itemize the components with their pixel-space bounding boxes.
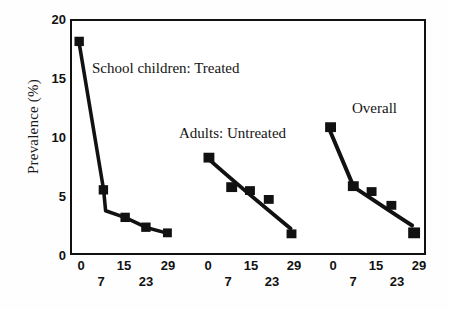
x-tick-g1-23: 23 — [139, 274, 153, 289]
data-point — [264, 195, 274, 204]
x-tick-g2-23: 23 — [265, 274, 279, 289]
x-tick-g1-7: 7 — [97, 274, 104, 289]
x-tick-g2-7: 7 — [224, 274, 231, 289]
x-tick-g1-29: 29 — [161, 258, 175, 273]
x-tick-g3-29: 29 — [412, 258, 426, 273]
data-point — [74, 37, 83, 46]
series-line-overall — [330, 131, 412, 225]
data-point — [408, 227, 420, 238]
x-tick-g1-0: 0 — [77, 258, 84, 273]
chart-figure: Prevalence (%) 20 15 10 5 0 — [0, 0, 449, 310]
data-point — [204, 153, 215, 163]
x-tick-g2-29: 29 — [287, 258, 301, 273]
annotation-overall: Overall — [352, 100, 397, 117]
data-point — [245, 186, 255, 195]
x-tick-g3-23: 23 — [390, 274, 404, 289]
x-tick-g3-0: 0 — [329, 258, 336, 273]
plot-frame: School children: Treated Adults: Untreat… — [70, 19, 426, 255]
annotation-school-children: School children: Treated — [92, 60, 239, 77]
x-tick-g3-7: 7 — [349, 274, 356, 289]
annotation-adults: Adults: Untreated — [179, 125, 286, 142]
x-tick-g2-15: 15 — [244, 258, 258, 273]
x-tick-g2-0: 0 — [204, 258, 211, 273]
x-axis-tick-labels: 0 7 15 23 29 0 7 15 23 29 0 7 15 23 29 — [0, 255, 449, 303]
data-point — [99, 185, 108, 194]
y-tick-20: 20 — [22, 12, 66, 27]
series-adults-untreated — [204, 153, 297, 239]
data-point — [163, 228, 172, 237]
y-tick-5: 5 — [22, 189, 66, 204]
x-tick-g3-15: 15 — [369, 258, 383, 273]
data-point — [325, 122, 336, 132]
data-point — [348, 181, 359, 191]
data-point — [367, 187, 377, 196]
x-tick-g1-15: 15 — [117, 258, 131, 273]
data-point — [120, 213, 129, 222]
series-overall — [325, 122, 420, 238]
data-point — [226, 182, 237, 192]
y-tick-15: 15 — [22, 71, 66, 86]
data-point — [141, 223, 150, 232]
y-tick-10: 10 — [22, 130, 66, 145]
data-point — [287, 229, 297, 238]
data-point — [386, 201, 396, 210]
